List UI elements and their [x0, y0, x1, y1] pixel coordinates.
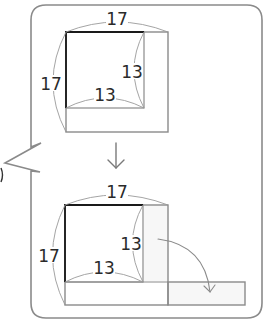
label-left-17: 17 — [38, 246, 60, 266]
label-inner-right-13: 13 — [121, 62, 143, 82]
callout-frame — [5, 5, 262, 318]
diagram-canvas: 17 17 13 13 17 17 — [0, 0, 266, 329]
label-left-17: 17 — [40, 74, 62, 94]
label-top-17: 17 — [106, 9, 128, 29]
label-inner-right-13: 13 — [120, 234, 142, 254]
cropped-glyph — [1, 168, 3, 182]
label-inner-bottom-13: 13 — [93, 258, 115, 278]
label-top-17: 17 — [106, 182, 128, 202]
label-inner-bottom-13: 13 — [94, 85, 116, 105]
